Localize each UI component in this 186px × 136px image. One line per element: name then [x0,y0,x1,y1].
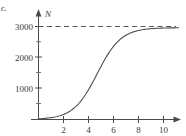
x-tick-label-4: 4 [86,125,91,135]
figure-root: c. N 3000 2000 1000 [0,0,186,136]
logistic-curve-line [39,28,179,119]
logistic-growth-chart: N 3000 2000 1000 2 4 6 8 10 [0,0,186,136]
x-axis-arrowhead [174,117,182,123]
x-tick-label-8: 8 [136,125,141,135]
y-tick-label-2000: 2000 [15,53,34,63]
y-tick-label-1000: 1000 [15,84,34,94]
x-tick-label-10: 10 [159,125,169,135]
y-tick-label-3000: 3000 [15,22,34,32]
y-axis-name-label: N [44,9,52,19]
y-axis-arrowhead [36,9,42,17]
x-tick-label-2: 2 [61,125,66,135]
x-tick-label-6: 6 [111,125,116,135]
